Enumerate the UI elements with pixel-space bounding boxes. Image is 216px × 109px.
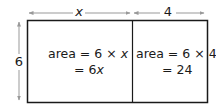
left-area-text: area = 6 × x = 6x xyxy=(48,46,128,78)
width-right-label: 4 xyxy=(161,5,175,19)
left-area-line1: area = 6 × x xyxy=(48,46,128,62)
left-area-line2: = 6x xyxy=(48,62,128,78)
height-label: 6 xyxy=(12,55,26,69)
right-area-line1: area = 6 × 4 xyxy=(136,46,216,62)
width-left-label: x xyxy=(73,5,85,19)
right-area-text: area = 6 × 4 = 24 xyxy=(136,46,216,78)
right-area-line2: = 24 xyxy=(136,62,216,78)
